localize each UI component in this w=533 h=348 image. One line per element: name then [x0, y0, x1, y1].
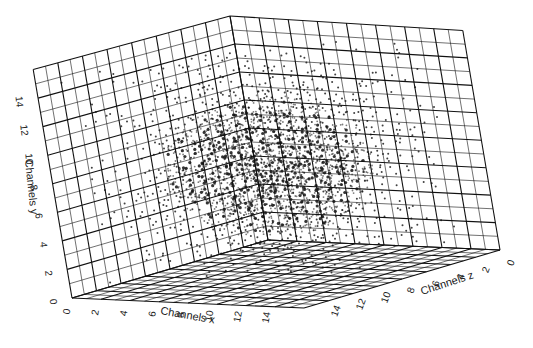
y-axis-label: Channels y — [23, 159, 41, 215]
tick-label: 10 — [379, 290, 393, 305]
z-axis-label: Channels z — [419, 268, 475, 296]
tick-label: 8 — [405, 285, 417, 294]
tick-label: 14 — [14, 96, 26, 109]
tick-label: 2 — [43, 270, 55, 277]
tick-label: 6 — [146, 310, 158, 318]
tick-label: 4 — [118, 309, 130, 317]
tick-label: 14 — [260, 311, 273, 324]
tick-label: 0 — [505, 258, 517, 267]
tick-label: 0 — [61, 307, 73, 315]
tick-label: 2 — [480, 265, 492, 274]
tick-label: 2 — [89, 308, 101, 316]
grid-walls — [33, 16, 500, 308]
tick-label: 12 — [354, 297, 368, 312]
tick-label: 0 — [48, 298, 60, 305]
x-axis-label: Channels x — [160, 304, 217, 325]
tick-label: 12 — [18, 124, 30, 137]
tick-label: 12 — [231, 310, 244, 323]
tick-label: 14 — [329, 303, 343, 318]
tick-label: 4 — [38, 241, 50, 248]
3d-scatter-plot: 024681012140246810121402468101214 Channe… — [0, 0, 533, 348]
